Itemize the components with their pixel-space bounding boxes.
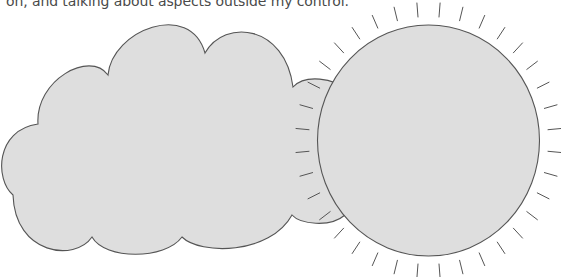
sun-ray-icon [417,3,418,17]
sun-ray-icon [513,43,522,53]
sun-ray-icon [335,43,344,53]
sun-ray-icon [394,7,397,21]
sun-ray-icon [352,242,360,253]
sun-ray-icon [372,253,378,266]
sun-ray-icon [537,82,549,88]
sun-ray-icon [335,228,344,238]
sun-ray-icon [439,264,440,277]
sun-ray-icon [497,242,505,253]
sun-ray-icon [352,28,360,39]
sun-ray-icon [460,260,463,274]
sun-ray-icon [527,212,538,220]
cloud-icon [2,25,345,254]
sun-icon [318,25,540,256]
sun-ray-icon [372,15,378,28]
sun-ray-icon [320,61,331,69]
sun-ray-icon [513,228,522,238]
sun-ray-icon [537,193,549,199]
sun-ray-icon [544,173,557,177]
sun-ray-icon [479,15,485,28]
sun-ray-icon [548,151,561,152]
cloud-sun-illustration [0,0,561,277]
sun-ray-icon [479,253,485,266]
sun-ray-icon [497,28,505,39]
sun-ray-icon [394,260,397,274]
sun-ray-icon [460,7,463,21]
sun-ray-icon [439,3,440,17]
sun-ray-icon [527,61,538,69]
sun-ray-icon [548,129,561,130]
sun-ray-icon [544,105,557,109]
sun-ray-icon [417,264,418,277]
